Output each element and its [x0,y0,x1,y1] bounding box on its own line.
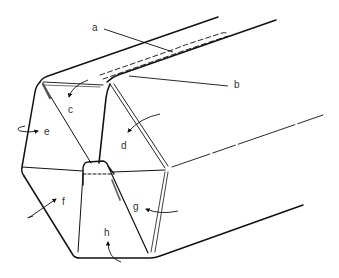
label-b: b [234,79,240,90]
label-h: h [104,227,110,238]
labels: a b c d e f g h [44,22,240,238]
label-d: d [121,140,127,151]
box-outline [22,17,323,258]
arrow-c-icon [69,80,88,97]
label-a: a [92,22,98,33]
arrow-f-icon [28,199,56,218]
label-e: e [44,126,50,137]
arrow-h-icon [108,242,121,262]
label-g: g [133,201,139,212]
label-f: f [62,196,65,207]
folded-box-diagram: a b c d e f g h [0,0,339,278]
label-c: c [68,104,73,115]
